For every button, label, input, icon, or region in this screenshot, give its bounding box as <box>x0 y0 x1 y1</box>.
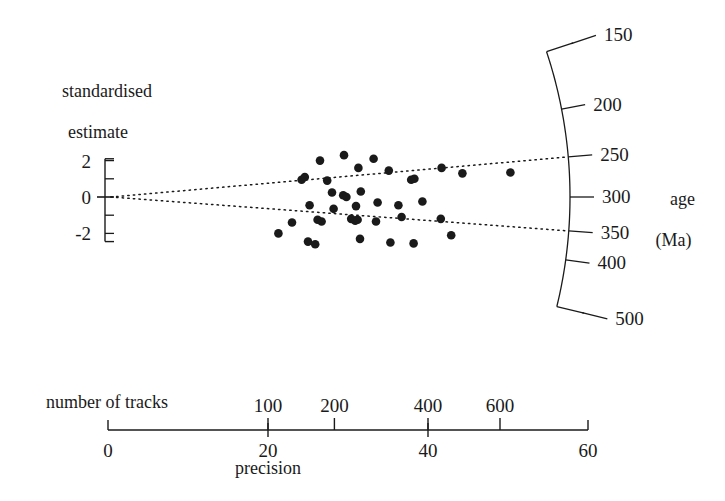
age-tick-label: 500 <box>615 308 644 329</box>
age-tick <box>562 105 586 110</box>
tracks-tick-label: 200 <box>320 395 349 416</box>
upper-dotted-line <box>111 197 569 231</box>
data-point <box>354 164 363 173</box>
right-axis-title-line2: (Ma) <box>652 230 695 251</box>
data-point <box>458 169 467 178</box>
age-tick <box>566 260 590 263</box>
data-point <box>437 215 446 224</box>
data-point <box>372 217 381 226</box>
data-point <box>437 164 446 173</box>
data-point <box>410 175 419 184</box>
top-axis-title: number of tracks <box>46 392 168 413</box>
data-point <box>328 188 337 197</box>
data-point <box>316 156 325 165</box>
right-axis-title: age (Ma) <box>652 168 695 292</box>
age-arc-endcap <box>547 43 574 52</box>
age-tick-label: 300 <box>602 186 631 207</box>
data-point <box>323 176 332 185</box>
data-point <box>317 217 326 226</box>
age-arc-axis <box>547 52 570 307</box>
data-point <box>288 218 297 227</box>
data-point <box>342 193 351 202</box>
age-tick <box>569 231 593 233</box>
x-axis-tick-label: 0 <box>103 440 113 461</box>
data-point <box>397 213 406 222</box>
x-axis-tick-label: 60 <box>579 440 598 461</box>
age-tick-label: 150 <box>604 24 633 45</box>
data-point <box>352 202 361 211</box>
y-axis-title-line1: standardised <box>62 81 152 101</box>
age-tick-label: 250 <box>600 144 629 165</box>
data-point <box>418 197 427 206</box>
y-axis-title: standardised estimate <box>44 60 152 184</box>
data-point <box>373 198 382 207</box>
data-point <box>369 154 378 163</box>
data-point <box>329 205 338 214</box>
age-tick <box>568 155 592 157</box>
age-tick <box>582 313 607 319</box>
y-axis-tick-label: 0 <box>82 187 92 208</box>
lower-dotted-line <box>111 157 568 197</box>
age-tick-label: 400 <box>597 252 626 273</box>
data-point <box>394 201 403 210</box>
data-point <box>357 187 366 196</box>
data-point <box>385 166 394 175</box>
data-point <box>409 239 418 248</box>
bottom-axis-title: precision <box>235 458 301 479</box>
age-tick-label: 200 <box>593 94 622 115</box>
data-point <box>274 229 283 238</box>
right-axis-title-line1: age <box>670 189 695 209</box>
radial-plot-figure: 50040035030025020015020-2020406010020040… <box>0 0 725 501</box>
age-arc-endcap <box>557 307 584 314</box>
data-point <box>311 240 320 249</box>
data-point <box>340 151 349 160</box>
tracks-tick-label: 100 <box>254 395 283 416</box>
data-point <box>386 238 395 247</box>
data-point <box>353 215 362 224</box>
age-tick <box>571 35 596 43</box>
y-axis-title-line2: estimate <box>44 122 152 143</box>
tracks-tick-label: 400 <box>414 395 443 416</box>
data-point <box>506 168 515 177</box>
x-axis-tick-label: 40 <box>419 440 438 461</box>
tracks-tick-label: 600 <box>486 395 515 416</box>
age-tick-label: 350 <box>601 222 630 243</box>
data-point <box>301 173 310 182</box>
data-point <box>447 231 456 240</box>
data-point <box>356 235 365 244</box>
y-axis-tick-label: -2 <box>75 223 91 244</box>
data-point <box>305 201 314 210</box>
